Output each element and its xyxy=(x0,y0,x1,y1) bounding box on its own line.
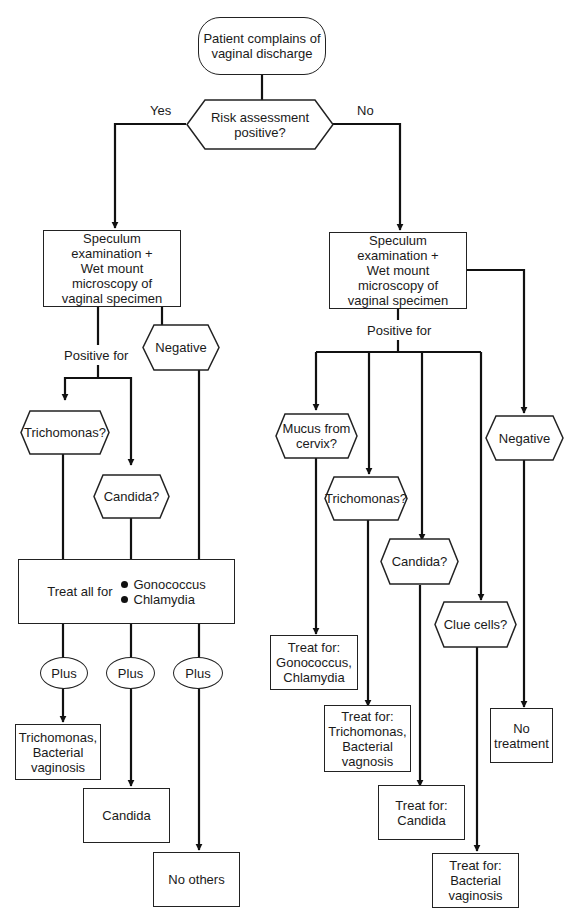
treat-all-item: Gonococcus xyxy=(121,577,206,592)
right-exam-text: Speculum examination + Wet mount microsc… xyxy=(348,233,448,308)
right-clue-cells-decision: Clue cells? xyxy=(434,601,517,648)
plus-oval-2: Plus xyxy=(106,657,155,689)
right-outcome-candida: Treat for: Candida xyxy=(378,785,465,840)
risk-assessment-decision: Risk assessment positive? xyxy=(186,99,334,150)
left-trichomonas-decision: Trichomonas? xyxy=(20,410,110,455)
right-positive-for-label: Positive for xyxy=(365,323,433,338)
treat-all-item: Chlamydia xyxy=(121,592,206,607)
right-outcome-bacterial-vaginosis: Treat for: Bacterial vaginosis xyxy=(432,853,519,908)
treat-all-prefix: Treat all for xyxy=(47,584,112,599)
left-exam-text: Speculum examination + Wet mount microsc… xyxy=(62,231,162,306)
left-outcome-candida: Candida xyxy=(83,788,170,843)
plus-oval-1: Plus xyxy=(40,657,88,689)
right-negative-decision: Negative xyxy=(485,415,564,461)
left-exam-box: Speculum examination + Wet mount microsc… xyxy=(43,230,181,307)
risk-assessment-text: Risk assessment positive? xyxy=(211,110,309,140)
right-candida-decision: Candida? xyxy=(380,538,459,585)
left-candida-text: Candida? xyxy=(104,489,160,504)
left-outcome-no-others: No others xyxy=(153,852,240,907)
left-negative-text: Negative xyxy=(155,340,206,355)
right-outcome-no-treatment: No treatment xyxy=(490,708,553,763)
right-mucus-decision: Mucus from cervix? xyxy=(275,413,358,459)
yes-label: Yes xyxy=(148,103,173,118)
left-positive-for-label: Positive for xyxy=(62,348,130,363)
start-node: Patient complains of vaginal discharge xyxy=(198,17,326,75)
left-trichomonas-text: Trichomonas? xyxy=(24,425,106,440)
left-outcome-trichomonas-bv: Trichomonas, Bacterial vaginosis xyxy=(15,724,101,780)
treat-all-content: Treat all for Gonococcus Chlamydia xyxy=(47,577,206,607)
left-candida-decision: Candida? xyxy=(93,474,170,519)
right-outcome-trichomonas-bv: Treat for: Trichomonas, Bacterial vagnos… xyxy=(324,705,411,772)
bullet-icon xyxy=(121,596,128,603)
left-negative-decision: Negative xyxy=(142,324,220,371)
right-exam-box: Speculum examination + Wet mount microsc… xyxy=(329,232,467,309)
treat-all-list: Gonococcus Chlamydia xyxy=(121,577,206,607)
bullet-icon xyxy=(121,581,128,588)
flowchart: Patient complains of vaginal discharge R… xyxy=(0,0,578,915)
treat-all-box: Treat all for Gonococcus Chlamydia xyxy=(18,559,235,624)
no-label: No xyxy=(355,103,376,118)
right-trichomonas-decision: Trichomonas? xyxy=(324,476,408,521)
start-text: Patient complains of vaginal discharge xyxy=(203,31,320,61)
right-outcome-gonococcus-chlamydia: Treat for: Gonococcus, Chlamydia xyxy=(270,635,358,690)
plus-oval-3: Plus xyxy=(173,657,223,689)
